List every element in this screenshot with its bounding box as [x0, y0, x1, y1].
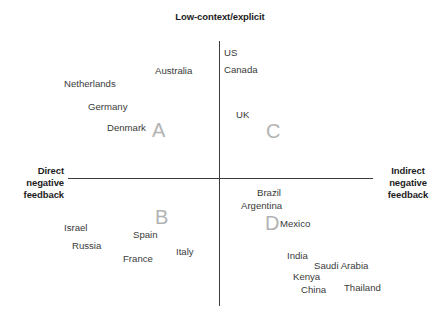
country-label-italy: Italy [176, 247, 194, 257]
country-label-saudi-arabia: Saudi Arabia [314, 261, 368, 271]
country-label-australia: Australia [155, 66, 192, 76]
quadrant-letter-a: A [152, 120, 165, 140]
country-label-thailand: Thailand [344, 283, 381, 293]
country-label-netherlands: Netherlands [64, 79, 116, 89]
quadrant-letter-d: D [265, 213, 279, 233]
country-label-brazil: Brazil [257, 188, 281, 198]
country-label-argentina: Argentina [241, 201, 282, 211]
country-label-denmark: Denmark [107, 123, 146, 133]
quadrant-letter-b: B [155, 207, 168, 227]
country-label-israel: Israel [64, 223, 87, 233]
country-label-russia: Russia [72, 241, 101, 251]
horizontal-axis-line [68, 178, 373, 179]
quadrant-letter-c: C [266, 121, 280, 141]
culture-map-chart: Low-context/explicit Direct negative fee… [0, 0, 440, 316]
country-label-canada: Canada [224, 65, 258, 75]
vertical-axis-line [219, 41, 220, 306]
country-label-germany: Germany [88, 102, 127, 112]
country-label-spain: Spain [133, 230, 158, 240]
top-axis-label: Low-context/explicit [120, 11, 320, 22]
country-label-kenya: Kenya [293, 272, 320, 282]
country-label-france: France [123, 254, 153, 264]
country-label-mexico: Mexico [280, 219, 310, 229]
left-axis-label: Direct negative feedback [0, 165, 64, 202]
country-label-us: US [224, 48, 237, 58]
country-label-uk: UK [236, 110, 249, 120]
right-axis-label: Indirect negative feedback [376, 165, 440, 202]
country-label-india: India [287, 251, 308, 261]
country-label-china: China [301, 285, 326, 295]
